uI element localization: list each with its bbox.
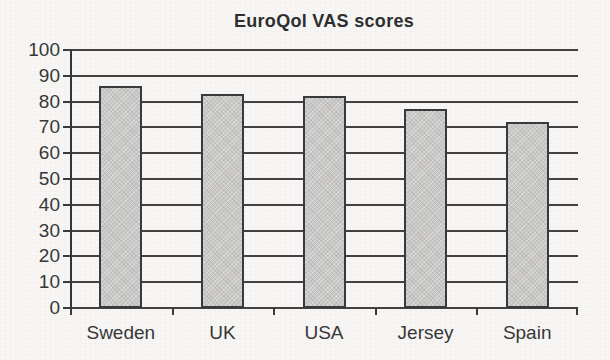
x-axis-label-sweden: Sweden <box>70 322 172 344</box>
x-axis-label-jersey: Jersey <box>375 322 477 344</box>
x-tick-1 <box>172 308 174 315</box>
y-axis-label-60: 60 <box>0 142 60 164</box>
bar-jersey <box>404 109 447 308</box>
y-axis-label-30: 30 <box>0 220 60 242</box>
y-axis-label-80: 80 <box>0 91 60 113</box>
y-axis-line <box>70 50 72 310</box>
x-tick-4 <box>476 308 478 315</box>
y-tick-80 <box>63 101 70 103</box>
x-tick-5 <box>576 308 578 315</box>
y-tick-0 <box>63 307 70 309</box>
x-tick-0 <box>70 308 72 315</box>
chart-title: EuroQol VAS scores <box>70 11 578 32</box>
y-axis-label-100: 100 <box>0 39 60 61</box>
y-tick-30 <box>63 230 70 232</box>
x-tick-3 <box>375 308 377 315</box>
y-axis-label-20: 20 <box>0 245 60 267</box>
y-axis-label-0: 0 <box>0 297 60 319</box>
y-tick-20 <box>63 255 70 257</box>
bar-spain <box>506 122 549 308</box>
y-tick-40 <box>63 204 70 206</box>
plot-area <box>70 50 578 308</box>
y-axis-label-50: 50 <box>0 168 60 190</box>
y-axis-label-70: 70 <box>0 116 60 138</box>
gridline-100 <box>70 49 578 51</box>
y-tick-100 <box>63 49 70 51</box>
y-axis-label-10: 10 <box>0 271 60 293</box>
bar-uk <box>201 94 244 308</box>
x-axis-label-usa: USA <box>273 322 375 344</box>
x-tick-2 <box>273 308 275 315</box>
gridline-90 <box>70 75 578 77</box>
y-tick-60 <box>63 152 70 154</box>
y-axis-label-40: 40 <box>0 194 60 216</box>
y-axis-label-90: 90 <box>0 65 60 87</box>
euroqol-vas-bar-chart: EuroQol VAS scores 010203040506070809010… <box>0 0 610 360</box>
bar-usa <box>303 96 346 308</box>
y-tick-50 <box>63 178 70 180</box>
y-tick-90 <box>63 75 70 77</box>
x-axis-label-spain: Spain <box>476 322 578 344</box>
bar-sweden <box>99 86 142 308</box>
y-tick-70 <box>63 126 70 128</box>
y-tick-10 <box>63 281 70 283</box>
x-axis-label-uk: UK <box>172 322 274 344</box>
